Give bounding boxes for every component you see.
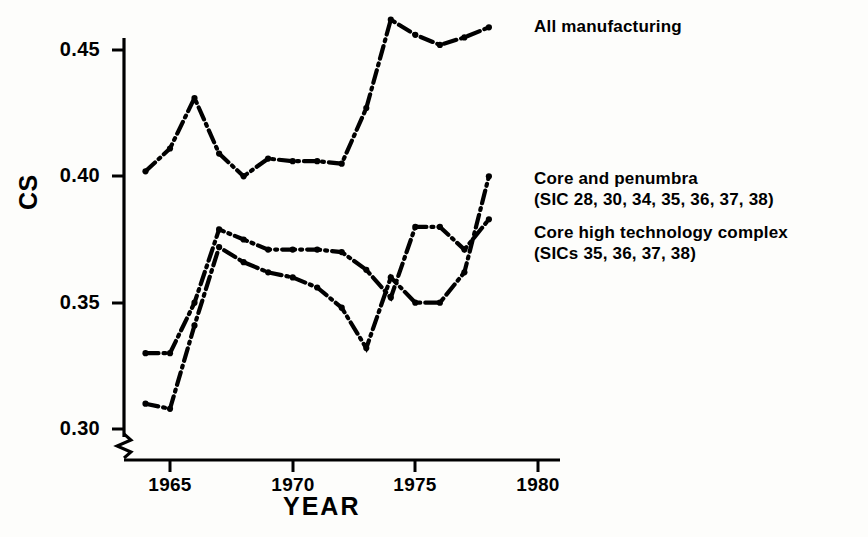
series-label-core-high-tech-line1: Core high technology complex	[534, 222, 788, 243]
series-leader-2	[489, 196, 526, 219]
y-tick-label-045: 0.45	[28, 38, 100, 61]
axis-lines	[117, 38, 560, 460]
series-label-core-penumbra-line2: (SIC 28, 30, 34, 35, 36, 37, 38)	[534, 189, 774, 210]
data-point-marker	[412, 300, 418, 306]
x-tick-label-1980: 1980	[498, 474, 578, 496]
data-point-marker	[216, 226, 222, 232]
data-point-marker	[388, 274, 394, 280]
data-point-marker	[167, 406, 173, 412]
data-point-marker	[339, 249, 345, 255]
series-3	[142, 173, 492, 412]
data-point-marker	[241, 259, 247, 265]
data-point-marker	[241, 173, 247, 179]
data-point-marker	[167, 145, 173, 151]
series-1	[142, 17, 492, 180]
data-point-marker	[191, 300, 197, 306]
data-point-marker	[290, 274, 296, 280]
data-point-marker	[339, 305, 345, 311]
series-line	[146, 176, 489, 408]
data-point-marker	[461, 247, 467, 253]
data-point-marker	[486, 216, 492, 222]
x-axis-title: YEAR	[283, 492, 360, 521]
data-point-marker	[437, 224, 443, 230]
data-point-marker	[142, 350, 148, 356]
data-point-marker	[216, 244, 222, 250]
series-label-all-manufacturing: All manufacturing	[534, 16, 682, 37]
data-point-marker	[314, 158, 320, 164]
data-point-marker	[265, 247, 271, 253]
data-point-marker	[437, 42, 443, 48]
y-axis-break-icon	[117, 434, 131, 458]
series-label-core-penumbra-line1: Core and penumbra	[534, 168, 698, 189]
data-series-layer	[142, 17, 526, 412]
data-point-marker	[191, 322, 197, 328]
y-tick-marks	[112, 50, 124, 429]
x-tick-marks	[170, 460, 538, 472]
y-tick-label-040: 0.40	[28, 164, 100, 187]
data-point-marker	[461, 34, 467, 40]
x-tick-label-1965: 1965	[130, 474, 210, 496]
series-label-core-high-tech-line2: (SICs 35, 36, 37, 38)	[534, 243, 696, 264]
data-point-marker	[265, 269, 271, 275]
chart-figure: CS YEAR 0.45 0.40 0.35 0.30 1965 1970 19…	[0, 0, 868, 537]
data-point-marker	[388, 295, 394, 301]
x-tick-label-1975: 1975	[375, 474, 455, 496]
data-point-marker	[290, 247, 296, 253]
y-tick-label-030: 0.30	[28, 417, 100, 440]
data-point-marker	[412, 32, 418, 38]
series-leader-3	[489, 176, 526, 232]
data-point-marker	[388, 17, 394, 23]
data-point-marker	[142, 168, 148, 174]
data-point-marker	[461, 269, 467, 275]
data-point-marker	[241, 236, 247, 242]
data-point-marker	[363, 267, 369, 273]
data-point-marker	[290, 158, 296, 164]
data-point-marker	[265, 156, 271, 162]
data-point-marker	[339, 161, 345, 167]
data-point-marker	[191, 95, 197, 101]
data-point-marker	[142, 401, 148, 407]
x-tick-label-1970: 1970	[253, 474, 333, 496]
data-point-marker	[167, 350, 173, 356]
data-point-marker	[363, 105, 369, 111]
chart-plot-area	[0, 0, 868, 537]
data-point-marker	[216, 151, 222, 157]
data-point-marker	[486, 173, 492, 179]
data-point-marker	[437, 300, 443, 306]
data-point-marker	[412, 224, 418, 230]
data-point-marker	[363, 345, 369, 351]
data-point-marker	[314, 247, 320, 253]
series-leader-1	[489, 23, 526, 27]
y-tick-label-035: 0.35	[28, 291, 100, 314]
data-point-marker	[314, 284, 320, 290]
